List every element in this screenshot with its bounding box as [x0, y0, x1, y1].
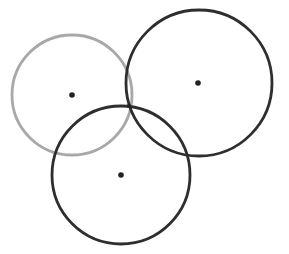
left-center-dot [69, 92, 75, 98]
common-intersection-dot [127, 104, 131, 108]
circles-group [12, 10, 272, 244]
right-center-dot [195, 80, 201, 86]
points-group [69, 80, 201, 178]
diagram-canvas [0, 0, 289, 254]
bottom-center-dot [118, 172, 124, 178]
